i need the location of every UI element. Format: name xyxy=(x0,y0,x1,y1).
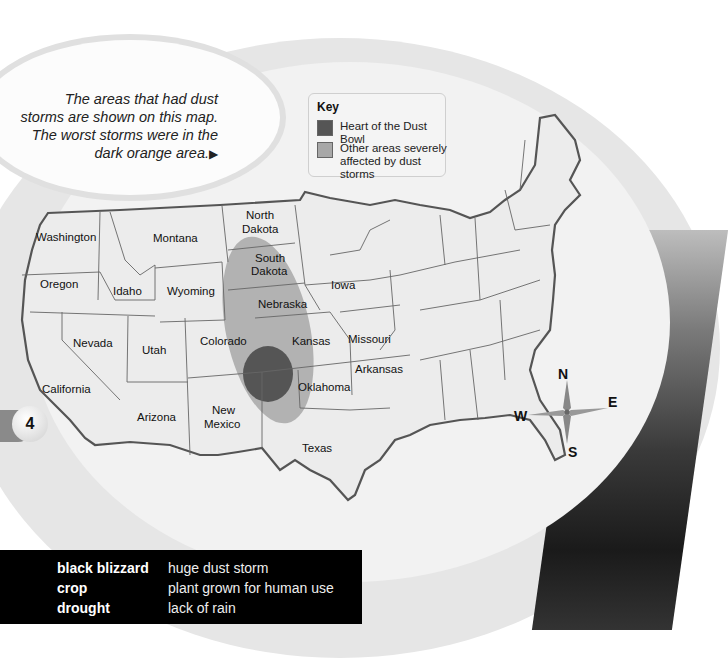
state-label-north-dakota-1: North xyxy=(246,209,274,221)
state-label-idaho: Idaho xyxy=(113,285,142,297)
state-label-kansas: Kansas xyxy=(292,335,331,347)
callout-caption: The areas that had dust storms are shown… xyxy=(21,91,218,161)
glossary-term: crop xyxy=(57,580,168,596)
state-label-nebraska: Nebraska xyxy=(258,298,308,310)
state-label-iowa: Iowa xyxy=(331,279,356,291)
glossary-row: black blizzard huge dust storm xyxy=(57,560,268,576)
state-label-arkansas: Arkansas xyxy=(355,363,403,375)
heart-of-dust-bowl xyxy=(243,346,293,402)
state-label-missouri: Missouri xyxy=(348,333,391,345)
state-label-south-dakota-1: South xyxy=(255,252,285,264)
state-label-california: California xyxy=(42,383,91,395)
state-label-texas: Texas xyxy=(302,442,332,454)
state-label-colorado: Colorado xyxy=(200,335,247,347)
light-swatch-icon xyxy=(317,142,333,158)
key-label-affected: Other areas severely affected by dust st… xyxy=(340,142,448,181)
state-label-arizona: Arizona xyxy=(137,411,177,423)
state-label-washington: Washington xyxy=(36,231,96,243)
compass-south: S xyxy=(568,444,577,460)
glossary-row: drought lack of rain xyxy=(57,600,236,616)
state-label-new-mexico-1: New xyxy=(212,404,236,416)
page-number: 4 xyxy=(12,406,48,442)
state-label-utah: Utah xyxy=(142,344,166,356)
dark-swatch-icon xyxy=(317,120,333,136)
state-label-south-dakota-2: Dakota xyxy=(251,265,288,277)
state-label-oklahoma: Oklahoma xyxy=(298,381,351,393)
arrow-right-icon: ▶ xyxy=(209,147,218,161)
state-label-wyoming: Wyoming xyxy=(167,285,215,297)
glossary-term: drought xyxy=(57,600,168,616)
state-label-oregon: Oregon xyxy=(40,278,78,290)
state-label-nevada: Nevada xyxy=(73,337,113,349)
callout-text: The areas that had dust storms are shown… xyxy=(20,90,218,163)
compass-west: W xyxy=(514,408,527,424)
glossary-definition: plant grown for human use xyxy=(168,580,334,596)
compass-rose: N E S W xyxy=(508,360,618,480)
state-label-north-dakota-2: Dakota xyxy=(242,223,279,235)
glossary-definition: huge dust storm xyxy=(168,560,268,576)
compass-east: E xyxy=(608,394,617,410)
key-item-affected: Other areas severely affected by dust st… xyxy=(317,142,448,181)
compass-north: N xyxy=(558,366,568,382)
glossary-row: crop plant grown for human use xyxy=(57,580,334,596)
key-title: Key xyxy=(317,100,339,114)
state-label-new-mexico-2: Mexico xyxy=(204,418,240,430)
map-key: Key Heart of the Dust Bowl Other areas s… xyxy=(308,93,446,177)
glossary-box: black blizzard huge dust storm crop plan… xyxy=(0,550,362,624)
state-label-montana: Montana xyxy=(153,232,198,244)
glossary-definition: lack of rain xyxy=(168,600,236,616)
glossary-term: black blizzard xyxy=(57,560,168,576)
